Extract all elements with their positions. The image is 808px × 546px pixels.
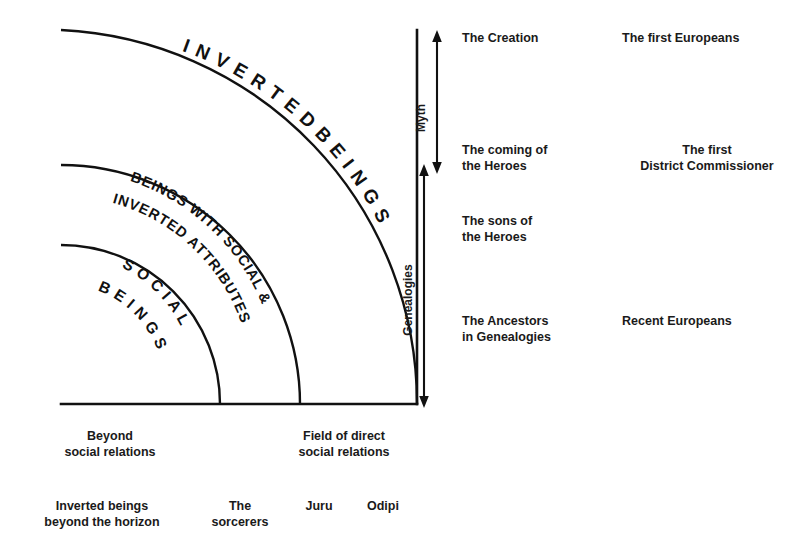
bottom-category-odipi: Odipi xyxy=(352,498,414,514)
zone-arcs xyxy=(61,30,417,404)
arc-outer-boundary xyxy=(61,30,417,404)
time-row-sons-of-heroes: The sons of the Heroes xyxy=(462,213,622,245)
figure-root: I N V E R T E D B E I N G S BEINGS WITH … xyxy=(0,0,808,546)
bottom-category-juru: Juru xyxy=(288,498,350,514)
zone-inner-label-line1: S O C I A L xyxy=(120,255,193,328)
concentric-quadrant-diagram: I N V E R T E D B E I N G S BEINGS WITH … xyxy=(0,0,808,546)
bottom-category-inverted-beings: Inverted beings beyond the horizon xyxy=(12,498,192,530)
contact-row-district-commissioner: The first District Commissioner xyxy=(612,142,802,174)
bottom-category-sorcerers: The sorcerers xyxy=(194,498,286,530)
time-row-coming-of-heroes: The coming of the Heroes xyxy=(462,142,622,174)
time-row-creation: The Creation xyxy=(462,30,622,46)
myth-axis-label: Myth xyxy=(414,104,428,132)
zone-outer-label: I N V E R T E D B E I N G S xyxy=(180,35,394,227)
contact-row-recent-europeans: Recent Europeans xyxy=(622,313,808,329)
time-row-ancestors-genealogies: The Ancestors in Genealogies xyxy=(462,313,632,345)
contact-row-first-europeans: The first Europeans xyxy=(622,30,808,46)
bottom-domain-field-of-direct-social-relations: Field of direct social relations xyxy=(256,428,432,460)
bottom-domain-beyond-social-relations: Beyond social relations xyxy=(22,428,198,460)
genealogies-axis-label: Genealogies xyxy=(401,264,415,336)
